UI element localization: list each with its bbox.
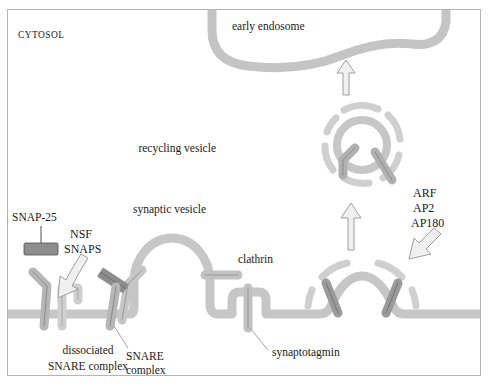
snap25-label: SNAP-25 <box>12 211 57 223</box>
synaptotagmin-label: synaptotagmin <box>272 346 340 359</box>
snap25 <box>24 243 58 255</box>
adaptors-label-arf: ARF <box>413 186 437 200</box>
recycling-vesicle-label: recycling vesicle <box>138 142 216 155</box>
cytosol-label: CYTOSOL <box>18 30 64 40</box>
snare-complex-label-line1: SNARE <box>126 350 164 362</box>
snap25-bar <box>24 243 58 255</box>
dissociated-snare-label-line2: SNARE complex <box>48 360 128 373</box>
adaptors-label-ap2: AP2 <box>413 201 434 215</box>
synaptic-vesicle-cycle-figure: early endosome recycli <box>0 0 489 385</box>
synaptic-vesicle-label: synaptic vesicle <box>133 203 206 216</box>
snaps-label: SNAPS <box>64 242 101 256</box>
dissociated-snare-label-line1: dissociated <box>62 344 113 356</box>
clathrin-label: clathrin <box>238 253 273 265</box>
diagram-canvas: early endosome recycli <box>0 0 489 385</box>
adaptors-label-ap180: AP180 <box>411 216 444 230</box>
nsf-label: NSF <box>70 227 92 241</box>
early-endosome-label: early endosome <box>232 20 305 33</box>
